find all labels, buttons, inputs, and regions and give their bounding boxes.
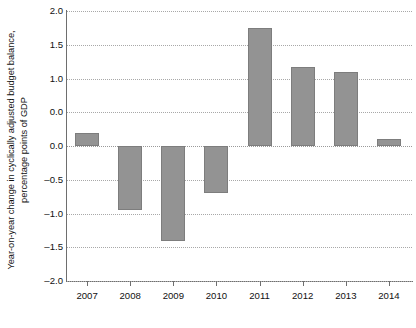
gridline <box>67 112 412 113</box>
x-tick-mark <box>173 281 174 286</box>
gridline <box>67 11 412 12</box>
figure-caption <box>0 316 416 326</box>
x-tick-mark <box>389 281 390 286</box>
x-tick-label: 2010 <box>194 290 238 301</box>
y-tick-label: 1.0 <box>33 74 63 84</box>
x-tick-label: 2011 <box>238 290 282 301</box>
x-tick-label: 2009 <box>151 290 195 301</box>
gridline <box>67 247 412 248</box>
x-tick-label: 2007 <box>65 290 109 301</box>
x-tick-mark <box>346 281 347 286</box>
bar <box>291 67 315 146</box>
y-tick-label: 0.0 <box>33 107 63 117</box>
x-tick-mark <box>303 281 304 286</box>
x-tick-mark <box>216 281 217 286</box>
gridline <box>67 281 412 282</box>
bar <box>161 146 185 241</box>
bar <box>204 146 228 193</box>
y-tick-label: –1.0 <box>33 209 63 219</box>
x-tick-label: 2008 <box>108 290 152 301</box>
x-tick-mark <box>87 281 88 286</box>
y-tick-label: –1.5 <box>33 242 63 252</box>
y-axis-title-line-1: Year-on-year change in cyclically adjust… <box>5 30 18 269</box>
x-tick-mark <box>260 281 261 286</box>
x-tick-label: 2013 <box>324 290 368 301</box>
y-axis-tick-labels: 2.01.51.00.00.0–0.5–1.0–1.5–2.0 <box>31 0 63 300</box>
y-tick-label: –2.0 <box>33 276 63 286</box>
y-tick-label: 0.0 <box>33 141 63 151</box>
x-tick-label: 2012 <box>281 290 325 301</box>
gridline <box>67 214 412 215</box>
y-axis-title-line-2: percentage points of GDP <box>18 30 31 269</box>
bar <box>118 146 142 210</box>
y-tick-label: –0.5 <box>33 175 63 185</box>
y-tick-label: 1.5 <box>33 40 63 50</box>
gridline <box>67 79 412 80</box>
x-tick-label: 2014 <box>367 290 411 301</box>
y-tick-label: 2.0 <box>33 6 63 16</box>
gridline <box>67 45 412 46</box>
bar-chart-figure: Year-on-year change in cyclically adjust… <box>0 0 416 328</box>
x-tick-mark <box>130 281 131 286</box>
bar <box>248 28 272 146</box>
bar <box>75 133 99 147</box>
bar <box>334 72 358 146</box>
bar <box>377 139 401 146</box>
